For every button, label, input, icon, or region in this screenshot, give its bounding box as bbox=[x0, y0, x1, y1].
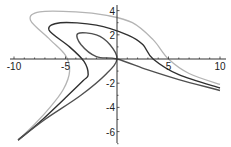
parametric-plot: -10-5510 42-2-4-6 bbox=[0, 0, 231, 147]
y-axis: 42-2-4-6 bbox=[106, 5, 119, 144]
y-tick-label: 2 bbox=[109, 30, 115, 41]
x-axis: -10-5510 bbox=[7, 57, 226, 73]
outer-curve bbox=[18, 11, 220, 140]
plot-curves bbox=[18, 11, 220, 140]
y-tick-label: -2 bbox=[106, 78, 115, 89]
x-tick-label: -5 bbox=[61, 61, 70, 72]
x-tick-label: 10 bbox=[214, 61, 226, 72]
y-tick-label: 4 bbox=[109, 6, 115, 17]
middle-curve bbox=[18, 22, 220, 140]
x-tick-label: 5 bbox=[166, 61, 172, 72]
inner-curve bbox=[18, 33, 220, 140]
y-tick-label: -4 bbox=[106, 102, 115, 113]
y-tick-label: -6 bbox=[106, 127, 115, 138]
x-tick-label: -10 bbox=[7, 61, 22, 72]
